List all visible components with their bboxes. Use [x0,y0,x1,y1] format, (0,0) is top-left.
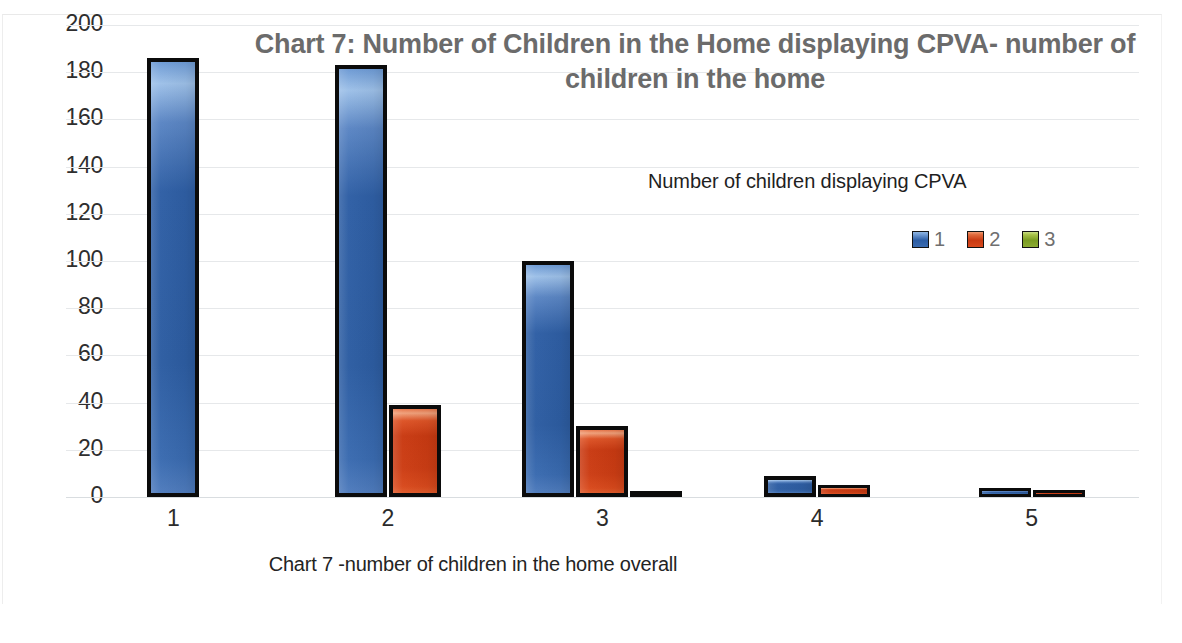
bar-series-2-category-4 [818,485,870,497]
bar-series-2-category-2 [389,405,441,497]
legend-label: 3 [1044,228,1055,251]
legend-swatch-icon [967,231,984,248]
bar-highlight [768,480,812,493]
legend-swatch-icon [1022,231,1039,248]
bar-highlight [580,430,624,493]
legend-label: 2 [989,228,1000,251]
bar-highlight [1036,493,1082,494]
bar-highlight [339,69,383,493]
bar-highlight [982,491,1028,494]
bar-series-2-category-3 [576,426,628,497]
gridline [66,497,1139,498]
legend-item-3[interactable]: 3 [1022,228,1055,251]
bar-series-2-category-5 [1033,490,1085,497]
x-axis-tick-label: 2 [281,505,496,532]
bar-highlight [393,409,437,493]
bar-series-1-category-2 [335,65,387,497]
bar-highlight [821,488,867,494]
legend-item-1[interactable]: 1 [912,228,945,251]
bar-series-1-category-1 [147,58,199,497]
x-axis-tick-label: 3 [495,505,710,532]
chart-title-line-2: children in the home [245,62,1145,97]
legend-label: 1 [934,228,945,251]
chart-title-line-1: Chart 7: Number of Children in the Home … [245,27,1145,62]
bar-series-1-category-3 [522,261,574,497]
x-axis-tick-label: 4 [710,505,925,532]
legend-title: Number of children displaying CPVA [648,170,967,193]
chart-figure: 020406080100120140160180200 Chart 7: Num… [0,0,1182,643]
bar-series-3-category-3 [630,491,682,497]
bar-highlight [151,62,195,493]
x-axis-tick-label: 5 [924,505,1139,532]
bar-highlight [526,265,570,493]
x-axis-tick-label: 1 [66,505,281,532]
chart-title: Chart 7: Number of Children in the Home … [245,27,1145,96]
bar-series-1-category-5 [979,488,1031,497]
x-axis-title: Chart 7 -number of children in the home … [66,553,880,576]
x-axis-tick-labels: 12345 [66,505,1139,545]
legend-item-2[interactable]: 2 [967,228,1000,251]
bar-series-1-category-4 [764,476,816,497]
legend: 123 [912,228,1055,251]
legend-swatch-icon [912,231,929,248]
